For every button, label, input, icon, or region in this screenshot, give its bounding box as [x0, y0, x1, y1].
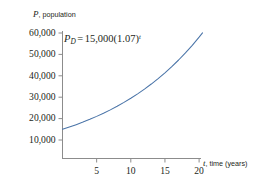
x-axis-tick-label: 10 — [120, 165, 142, 176]
y-axis-tick-label: 30,000 — [14, 91, 56, 102]
exponential-growth-curve — [63, 33, 203, 129]
population-growth-chart: P, population t, time (years) PD=15,000(… — [0, 0, 262, 189]
y-axis-tick-label: 50,000 — [14, 48, 56, 59]
x-axis-tick-label: 5 — [86, 165, 108, 176]
y-axis-tick-label: 10,000 — [14, 134, 56, 145]
axes — [62, 31, 201, 159]
x-axis-tick-label: 20 — [188, 165, 210, 176]
y-axis-tick-label: 20,000 — [14, 112, 56, 123]
y-axis-tick-label: 40,000 — [14, 70, 56, 81]
y-axis-tick-label: 60,000 — [14, 27, 56, 38]
x-axis-tick-label: 15 — [154, 165, 176, 176]
x-axis-ticks — [97, 159, 199, 163]
y-axis-ticks — [59, 33, 63, 140]
